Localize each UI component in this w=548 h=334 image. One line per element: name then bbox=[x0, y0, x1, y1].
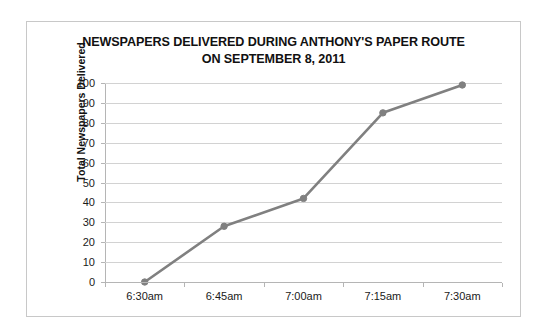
y-axis-tick-label: 80 bbox=[83, 117, 95, 129]
chart-title-line-1: NEWSPAPERS DELIVERED DURING ANTHONY'S PA… bbox=[82, 35, 465, 49]
series-line bbox=[145, 85, 463, 282]
y-axis-tick-label: 90 bbox=[83, 97, 95, 109]
x-axis-tick-label: 7:15am bbox=[365, 290, 402, 302]
x-axis-tick-label: 7:30am bbox=[444, 290, 481, 302]
x-axis-tick-mark bbox=[343, 283, 344, 287]
x-axis-tick-mark bbox=[423, 283, 424, 287]
y-axis-tick-mark bbox=[101, 222, 105, 223]
y-axis-tick-label: 40 bbox=[83, 196, 95, 208]
y-axis-tick-mark bbox=[101, 262, 105, 263]
y-axis-tick-label: 10 bbox=[83, 256, 95, 268]
plot-area bbox=[105, 83, 502, 282]
y-axis-tick-mark bbox=[101, 242, 105, 243]
chart-frame: NEWSPAPERS DELIVERED DURING ANTHONY'S PA… bbox=[26, 21, 521, 317]
y-axis-tick-mark bbox=[101, 83, 105, 84]
x-axis-line bbox=[105, 282, 502, 283]
y-axis-tick-mark bbox=[101, 123, 105, 124]
y-axis-tick-mark bbox=[101, 183, 105, 184]
x-axis-tick-mark bbox=[502, 283, 503, 287]
y-axis-tick-label: 60 bbox=[83, 157, 95, 169]
x-axis-tick-mark bbox=[264, 283, 265, 287]
y-axis-tick-label: 0 bbox=[89, 276, 95, 288]
x-axis-tick-label: 6:45am bbox=[206, 290, 243, 302]
y-axis-tick-label: 30 bbox=[83, 216, 95, 228]
line-series bbox=[105, 83, 502, 282]
y-axis-tick-mark bbox=[101, 143, 105, 144]
x-axis-tick-mark bbox=[105, 283, 106, 287]
data-point-marker bbox=[300, 195, 306, 201]
y-axis-tick-label: 50 bbox=[83, 177, 95, 189]
data-point-marker bbox=[221, 223, 227, 229]
y-axis-tick-labels: 1009080706050403020100 bbox=[61, 83, 99, 283]
y-axis-tick-mark bbox=[101, 202, 105, 203]
data-point-marker bbox=[380, 110, 386, 116]
chart-title-line-2: ON SEPTEMBER 8, 2011 bbox=[27, 51, 520, 68]
y-axis-tick-mark bbox=[101, 103, 105, 104]
y-axis-tick-label: 70 bbox=[83, 137, 95, 149]
data-point-marker bbox=[459, 82, 465, 88]
chart-title: NEWSPAPERS DELIVERED DURING ANTHONY'S PA… bbox=[27, 34, 520, 68]
y-axis-tick-label: 100 bbox=[77, 77, 95, 89]
y-axis-tick-mark bbox=[101, 163, 105, 164]
x-axis-tick-labels: 6:30am6:45am7:00am7:15am7:30am bbox=[105, 290, 502, 308]
x-axis-tick-label: 7:00am bbox=[285, 290, 322, 302]
x-axis-tick-mark bbox=[184, 283, 185, 287]
y-axis-tick-label: 20 bbox=[83, 236, 95, 248]
x-axis-tick-label: 6:30am bbox=[126, 290, 163, 302]
